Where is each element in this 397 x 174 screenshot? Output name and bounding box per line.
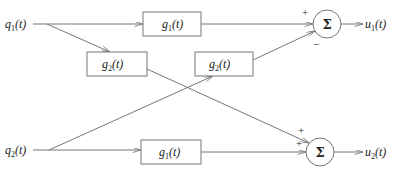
sum2-sign-plus-top: + — [298, 124, 304, 136]
sum1-sign-minus: − — [313, 38, 319, 50]
wire-q2-to-g2-right — [49, 76, 213, 150]
input-q2-label: q2(t) — [5, 143, 26, 159]
block-g2-right: g2(t) — [195, 52, 253, 76]
block-g2-left: g2(t) — [87, 52, 147, 76]
sum1-sign-plus: + — [302, 6, 308, 18]
block-diagram: q1(t) q2(t) g1(t) g2(t) g2(t) g1(t) Σ + … — [0, 0, 397, 174]
block-g1-bottom: g1(t) — [141, 140, 201, 164]
sigma-icon: Σ — [315, 145, 324, 160]
summer-1: Σ + − — [302, 6, 341, 50]
svg-text:g1(t): g1(t) — [162, 17, 183, 33]
svg-text:g2(t): g2(t) — [209, 57, 230, 73]
sum2-sign-plus-bottom: + — [296, 137, 302, 149]
sigma-icon: Σ — [322, 17, 331, 32]
wire-q1-to-g2-left — [47, 24, 110, 52]
svg-text:g2(t): g2(t) — [102, 57, 123, 73]
block-g1-top: g1(t) — [143, 12, 201, 36]
wire-g2-left-to-sum2 — [147, 69, 309, 143]
svg-text:g1(t): g1(t) — [159, 145, 180, 161]
output-u2-label: u2(t) — [365, 145, 386, 161]
wire-g2-right-to-sum1 — [253, 31, 315, 60]
input-q1-label: q1(t) — [5, 17, 26, 33]
summer-2: Σ + + — [296, 124, 334, 166]
output-u1-label: u1(t) — [365, 17, 386, 33]
